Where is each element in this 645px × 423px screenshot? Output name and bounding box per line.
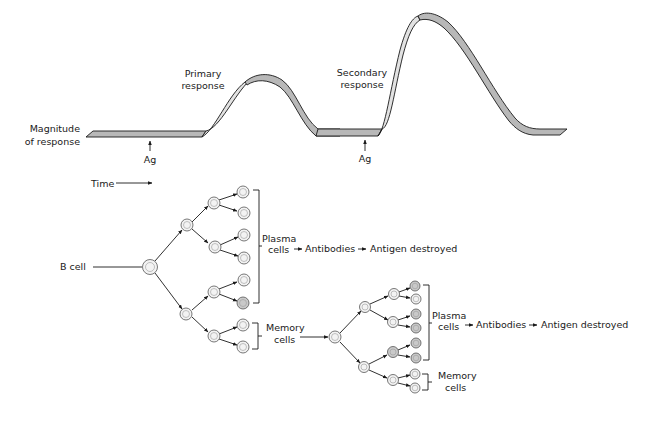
daughter-cell xyxy=(359,362,370,373)
response-curve xyxy=(86,13,567,137)
plasma-cells-label-2-line1: Plasma xyxy=(432,310,466,321)
daughter-cell xyxy=(208,286,220,298)
memory-cells-label-line1: Memory xyxy=(266,322,305,333)
secondary-fall-ribbon xyxy=(418,13,567,135)
daughter-cell xyxy=(208,330,220,342)
plasma-cell xyxy=(238,229,250,241)
b-cell-label: B cell xyxy=(60,261,86,272)
antigen-marker-2: Ag xyxy=(359,153,372,164)
plasma-cell xyxy=(411,323,421,333)
daughter-cell xyxy=(181,219,193,231)
baseline-ribbon-2 xyxy=(316,129,382,136)
memory-cells-label-line2: cells xyxy=(274,334,295,345)
memory-cell xyxy=(237,341,249,353)
plasma-bracket xyxy=(253,190,262,303)
plasma-cells-label-2-line2: cells xyxy=(438,321,459,332)
time-axis-label: Time xyxy=(90,178,114,189)
memory-bracket-2 xyxy=(422,374,432,390)
plasma-cell xyxy=(238,207,250,219)
memory-bracket xyxy=(252,323,262,349)
daughter-cell xyxy=(180,308,192,320)
plasma-cell xyxy=(411,294,421,304)
plasma-cell xyxy=(237,186,249,198)
plasma-cell xyxy=(410,281,420,291)
primary-differentiation-tree: B cell Plasma cells xyxy=(60,186,457,353)
plasma-cell xyxy=(411,353,421,363)
y-axis-label-line2: of response xyxy=(25,136,80,147)
memory-cells-label-2-line2: cells xyxy=(445,382,466,393)
primary-response-label-line1: Primary xyxy=(185,68,222,79)
daughter-cell xyxy=(209,241,221,253)
memory-cell xyxy=(410,383,420,393)
memory-cells-label-2-line1: Memory xyxy=(438,370,477,381)
plasma-cell xyxy=(238,274,250,286)
daughter-cell xyxy=(388,347,399,358)
daughter-cell xyxy=(389,289,400,300)
plasma-cell xyxy=(237,297,249,309)
daughter-cell xyxy=(208,197,220,209)
daughter-cell xyxy=(388,317,399,328)
memory-cell xyxy=(410,369,420,379)
antigen-marker-1: Ag xyxy=(144,154,157,165)
secondary-differentiation-tree: Plasma cells Antibodies Antigen destroye… xyxy=(329,281,628,393)
plasma-bracket-2 xyxy=(423,285,432,360)
antibodies-label: Antibodies xyxy=(305,243,355,254)
antigen-destroyed-label: Antigen destroyed xyxy=(370,243,457,254)
daughter-cell xyxy=(360,302,371,313)
primary-fall-ribbon xyxy=(245,75,340,136)
plasma-cell xyxy=(411,309,421,319)
plasma-cell xyxy=(411,338,421,348)
b-cell xyxy=(143,260,158,275)
baseline-ribbon-1 xyxy=(86,131,206,137)
plasma-cells-label-line1: Plasma xyxy=(262,233,296,244)
immune-response-diagram: Magnitude of response Primary response S… xyxy=(0,0,645,423)
secondary-response-label-line1: Secondary xyxy=(337,67,388,78)
primary-response-label-line2: response xyxy=(181,80,224,91)
antibodies-label-2: Antibodies xyxy=(476,319,526,330)
secondary-response-label-line2: response xyxy=(340,79,383,90)
antigen-destroyed-label-2: Antigen destroyed xyxy=(541,319,628,330)
memory-cell xyxy=(237,319,249,331)
y-axis-label-line1: Magnitude xyxy=(30,123,80,134)
memory-cell-activated xyxy=(329,331,341,343)
daughter-cell xyxy=(388,375,399,386)
plasma-cells-label-line2: cells xyxy=(268,244,289,255)
plasma-cell xyxy=(238,252,250,264)
